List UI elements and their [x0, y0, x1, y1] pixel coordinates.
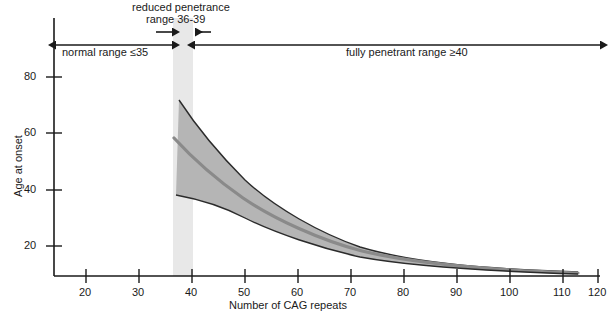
y-tick-label-80: 80 — [24, 70, 36, 82]
x-tick-label-20: 20 — [79, 286, 91, 298]
x-tick-label-80: 80 — [397, 286, 409, 298]
normal-range-label: normal range ≤35 — [62, 46, 148, 58]
x-tick-label-30: 30 — [132, 286, 144, 298]
x-tick-label-110: 110 — [553, 286, 571, 298]
x-tick-label-40: 40 — [185, 286, 197, 298]
fully-penetrant-label: fully penetrant range ≥40 — [346, 46, 468, 58]
onset-range-band — [176, 100, 578, 274]
x-axis-title: Number of CAG repeats — [229, 299, 347, 311]
y-tick-label-40: 40 — [24, 183, 36, 195]
x-tick-label-70: 70 — [344, 286, 356, 298]
figure-container: reduced penetrance range 36-39 normal ra… — [0, 0, 611, 313]
x-tick-label-100: 100 — [500, 286, 518, 298]
reduced-penetrance-label-line1: reduced penetrance — [132, 1, 230, 13]
y-tick-label-20: 20 — [24, 239, 36, 251]
reduced-penetrance-label-line2: range 36-39 — [146, 13, 205, 25]
x-tick-label-60: 60 — [291, 286, 303, 298]
y-axis-title: Age at onset — [12, 126, 24, 206]
x-tick-label-120: 120 — [588, 286, 606, 298]
x-tick-label-50: 50 — [238, 286, 250, 298]
y-tick-label-60: 60 — [24, 126, 36, 138]
x-tick-label-90: 90 — [450, 286, 462, 298]
